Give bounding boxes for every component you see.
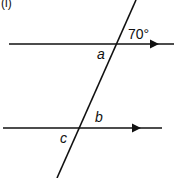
transversal-line [57, 0, 136, 178]
angle-label-b: b [95, 109, 103, 125]
part-label: (i) [1, 0, 12, 10]
lower-arrow-icon [132, 124, 141, 133]
angle-given-label: 70° [128, 26, 149, 42]
parallel-lines-diagram: (i) 70° a b c [0, 0, 174, 178]
angle-label-c: c [60, 130, 67, 146]
angle-label-a: a [97, 46, 105, 62]
upper-arrow-icon [150, 40, 159, 49]
